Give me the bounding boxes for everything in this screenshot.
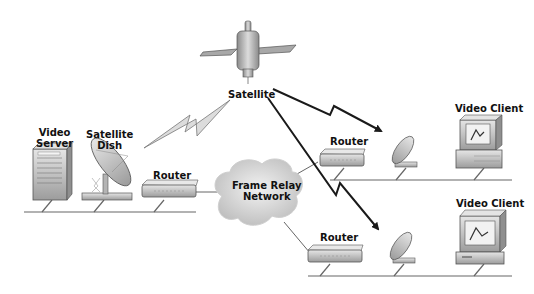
label-router-site1: Router [330, 136, 368, 147]
label-router-main: Router [153, 170, 191, 181]
label-video-server-line2: Server [36, 138, 73, 149]
satellite-dish-site2-icon [386, 229, 416, 263]
uplink-lightning [144, 100, 230, 148]
video-server-icon [33, 143, 72, 200]
router-site2-icon [308, 245, 363, 262]
label-satellite: Satellite [228, 89, 275, 100]
lan-main-segment [24, 200, 196, 212]
label-video-server-line1: Video [36, 127, 73, 138]
label-satellite-dish: Satellite Dish [86, 129, 133, 151]
label-satellite-dish-line1: Satellite [86, 129, 133, 140]
label-video-server: Video Server [36, 127, 73, 149]
video-client-site2-icon [456, 210, 506, 264]
label-video-client-site1: Video Client [455, 103, 523, 114]
label-video-client-site2: Video Client [456, 198, 524, 209]
label-frame-relay-line2: Network [232, 191, 301, 202]
network-diagram: Satellite Video Server Satellite Dish Ro… [0, 0, 534, 294]
lan-site1-segment [330, 168, 512, 180]
label-frame-relay-line1: Frame Relay [232, 180, 301, 191]
satellite-dish-site1-icon [388, 133, 418, 167]
label-frame-relay: Frame Relay Network [232, 180, 301, 202]
satellite-icon [200, 21, 296, 84]
lan-site2-segment [308, 264, 512, 276]
router-site1-icon [320, 149, 365, 166]
label-satellite-dish-line2: Dish [86, 140, 133, 151]
router-main-icon [142, 180, 198, 197]
video-client-site1-icon [456, 115, 502, 168]
label-router-site2: Router [320, 232, 358, 243]
